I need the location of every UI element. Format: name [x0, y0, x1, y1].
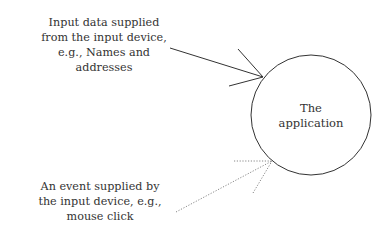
input-data-arrow [170, 48, 263, 86]
event-arrow [176, 161, 272, 212]
application-label: The application [262, 101, 360, 131]
input-data-label: Input data supplied from the input devic… [30, 15, 178, 75]
event-label: An event supplied by the input device, e… [30, 179, 170, 224]
diagram-canvas: Input data supplied from the input devic… [0, 0, 390, 240]
